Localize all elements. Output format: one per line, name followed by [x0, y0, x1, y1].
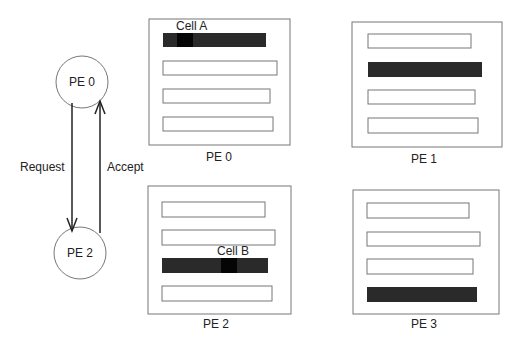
pe3-row-0 [367, 203, 469, 218]
pe1-memory-box: PE 1 [352, 22, 502, 166]
pe2-row-1 [162, 230, 275, 245]
pe1-row-3 [368, 118, 478, 133]
node-pe2: PE 2 [54, 227, 106, 279]
edge-accept-label: Accept [107, 160, 144, 174]
edge-request-label: Request [20, 160, 65, 174]
pe1-row-2 [368, 90, 475, 104]
pe2-label: PE 2 [203, 317, 229, 331]
cell-a-label: Cell A [176, 19, 207, 33]
pe3-label: PE 3 [411, 317, 437, 331]
pe3-memory-box: PE 3 [353, 190, 499, 331]
pe1-label: PE 1 [411, 152, 437, 166]
pe0-row-1 [163, 61, 277, 75]
pe2-memory-box: Cell B PE 2 [148, 186, 291, 331]
edge-accept-arrow: Accept [95, 101, 144, 233]
cell-a [177, 33, 193, 47]
pe2-row-0 [162, 202, 265, 217]
edge-request-arrow: Request [20, 103, 77, 231]
pe2-row-3 [162, 286, 272, 301]
pe3-row-1 [367, 232, 480, 246]
pe1-row-0 [368, 34, 471, 48]
pe0-label: PE 0 [206, 150, 232, 164]
pe0-row-3 [163, 117, 273, 131]
cell-b-label: Cell B [217, 244, 249, 258]
diagram-canvas: PE 0 PE 2 Request Accept Cell A PE 0 PE … [0, 0, 520, 347]
pe3-row-3-filled [367, 287, 477, 302]
pe2-row-2-filled [162, 258, 268, 273]
pe1-row-1-filled [368, 62, 482, 77]
cell-b [221, 258, 237, 273]
pe0-memory-box: Cell A PE 0 [149, 19, 290, 164]
pe0-row-2 [163, 89, 270, 103]
pe3-row-2 [367, 259, 473, 274]
node-pe2-label: PE 2 [67, 246, 93, 260]
node-pe0-label: PE 0 [69, 75, 95, 89]
